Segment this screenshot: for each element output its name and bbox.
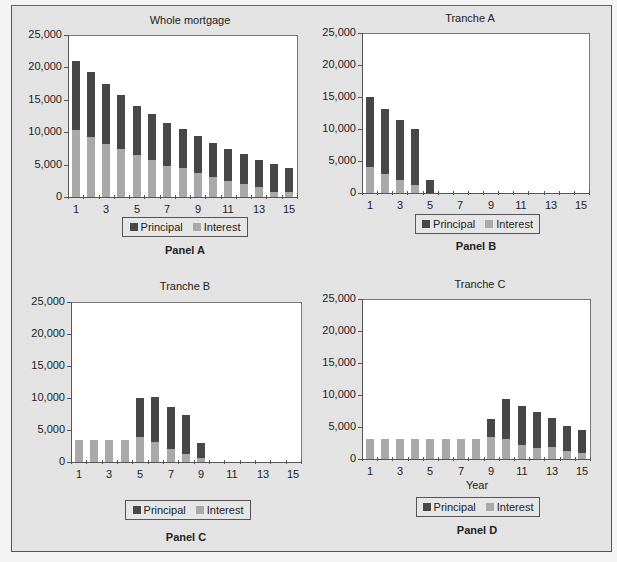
bar-year-3 xyxy=(102,84,110,197)
x-tick xyxy=(468,191,469,195)
x-axis xyxy=(362,459,591,460)
bar-segment-principal xyxy=(518,406,526,446)
x-tick-label: 13 xyxy=(249,203,269,215)
x-tick xyxy=(163,460,164,464)
x-tick-label: 3 xyxy=(96,203,116,215)
bar-segment-principal xyxy=(426,180,434,193)
bar-segment-interest xyxy=(366,167,374,193)
bar-segment-interest xyxy=(194,173,202,197)
y-tick xyxy=(67,398,71,399)
bar-year-4 xyxy=(411,129,419,193)
x-tick xyxy=(99,195,100,199)
bar-segment-interest xyxy=(136,437,144,462)
y-tick-label: 10,000 xyxy=(13,391,65,403)
bar-year-11 xyxy=(518,406,526,459)
x-tick-label: 15 xyxy=(283,468,303,480)
legend-label: Interest xyxy=(497,501,534,513)
bar-segment-principal xyxy=(396,120,404,180)
bar-segment-principal xyxy=(179,129,187,169)
bar-segment-interest xyxy=(472,439,480,459)
x-tick xyxy=(590,457,591,461)
y-tick-label: 25,000 xyxy=(304,26,356,38)
x-tick xyxy=(377,191,378,195)
x-tick-label: 11 xyxy=(512,465,532,477)
interest-swatch-icon xyxy=(196,506,204,514)
x-tick-label: 9 xyxy=(481,465,501,477)
y-tick-label: 25,000 xyxy=(304,292,356,304)
bar-segment-principal xyxy=(209,143,217,177)
bar-segment-interest xyxy=(411,185,419,193)
bar-year-5 xyxy=(136,398,144,462)
bar-year-5 xyxy=(133,106,141,197)
x-tick xyxy=(574,191,575,195)
y-tick-label: 20,000 xyxy=(13,327,65,339)
x-tick xyxy=(297,195,298,199)
bar-segment-principal xyxy=(533,412,541,448)
bar-year-14 xyxy=(563,426,571,459)
bar-segment-interest xyxy=(578,453,586,459)
x-tick xyxy=(438,191,439,195)
bar-year-2 xyxy=(381,109,389,193)
principal-swatch-icon xyxy=(422,220,430,228)
bar-year-12 xyxy=(240,154,248,197)
y-tick-label: 15,000 xyxy=(13,359,65,371)
y-tick-label: 0 xyxy=(304,186,356,198)
x-tick xyxy=(408,457,409,461)
x-tick xyxy=(209,460,210,464)
bar-year-8 xyxy=(472,439,480,459)
x-tick-label: 5 xyxy=(127,203,147,215)
x-tick-label: 7 xyxy=(451,465,471,477)
bar-year-5 xyxy=(426,439,434,459)
y-tick xyxy=(358,65,362,66)
y-tick-label: 15,000 xyxy=(10,93,62,105)
chart-legend: PrincipalInterest xyxy=(415,214,540,234)
x-tick xyxy=(282,195,283,199)
bar-year-3 xyxy=(396,120,404,193)
legend-label: Principal xyxy=(144,504,186,516)
bar-year-4 xyxy=(121,440,129,462)
y-tick-label: 5,000 xyxy=(304,154,356,166)
x-tick xyxy=(498,191,499,195)
y-tick xyxy=(358,395,362,396)
bar-segment-interest xyxy=(442,439,450,459)
x-tick-label: 9 xyxy=(191,468,211,480)
bar-segment-interest xyxy=(396,439,404,459)
legend-label: Principal xyxy=(433,218,475,230)
x-tick-label: 9 xyxy=(188,203,208,215)
x-tick xyxy=(377,457,378,461)
x-tick-label: 7 xyxy=(161,468,181,480)
x-tick-label: 13 xyxy=(541,199,561,211)
bar-segment-principal xyxy=(381,109,389,175)
plot-area xyxy=(362,299,591,460)
bar-segment-interest xyxy=(133,155,141,197)
bar-year-6 xyxy=(148,114,156,197)
y-tick-label: 5,000 xyxy=(304,420,356,432)
bar-year-15 xyxy=(578,430,586,459)
x-tick xyxy=(544,457,545,461)
x-tick xyxy=(144,195,145,199)
x-tick-label: 7 xyxy=(450,199,470,211)
x-tick xyxy=(362,457,363,461)
bar-year-13 xyxy=(255,160,263,197)
bar-segment-interest xyxy=(502,439,510,459)
x-tick xyxy=(71,460,72,464)
bar-year-4 xyxy=(117,95,125,197)
bar-segment-interest xyxy=(411,439,419,459)
bar-segment-principal xyxy=(197,443,205,458)
bar-segment-interest xyxy=(151,442,159,462)
bar-year-9 xyxy=(197,443,205,462)
bar-year-12 xyxy=(533,412,541,459)
x-tick-label: 11 xyxy=(218,203,238,215)
bar-year-7 xyxy=(163,123,171,197)
x-tick xyxy=(560,457,561,461)
bar-segment-principal xyxy=(182,415,190,454)
bar-year-9 xyxy=(194,136,202,197)
y-tick xyxy=(67,366,71,367)
chart-title: Tranche B xyxy=(115,280,255,292)
x-tick-label: 5 xyxy=(420,199,440,211)
bar-year-11 xyxy=(224,149,232,197)
bar-year-7 xyxy=(457,439,465,459)
bar-segment-interest xyxy=(75,440,83,462)
bar-year-10 xyxy=(502,399,510,459)
bar-year-3 xyxy=(396,439,404,459)
